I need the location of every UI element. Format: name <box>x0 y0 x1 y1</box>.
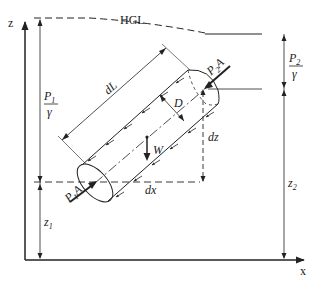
p2-gamma-numerator: P2 <box>288 51 300 67</box>
z2-label: z2 <box>287 176 297 192</box>
dz-label: dz <box>208 130 219 144</box>
z-axis-label: z <box>8 16 13 30</box>
weight-arrow: W <box>144 135 165 161</box>
p2-gamma-denominator: γ <box>292 67 297 81</box>
D-dimension: D <box>160 95 184 121</box>
hgl-label: HGL <box>120 13 145 27</box>
p2A-label: P2A <box>203 55 229 81</box>
p1-gamma-denominator: γ <box>47 105 52 119</box>
W-label: W <box>153 143 164 157</box>
p1A-label: P1A <box>61 182 87 208</box>
z-axis: z <box>8 16 25 260</box>
p1-gamma-numerator: P1 <box>43 89 55 105</box>
x-axis: x <box>25 260 306 278</box>
dx-label: dx <box>145 183 157 197</box>
dL-label: dL <box>101 78 120 97</box>
z1-label: z1 <box>43 215 53 231</box>
D-label: D <box>173 96 183 110</box>
p1-gamma-dimension: P1 γ z1 <box>38 19 59 259</box>
p1A-force: P1A <box>61 181 97 207</box>
p2A-force: P2A <box>203 55 230 89</box>
x-axis-label: x <box>300 264 306 278</box>
diagram-canvas: z x HGL P1 γ z1 P2 γ z2 <box>0 0 317 284</box>
dz-dimension: dz <box>201 89 220 182</box>
pipe-flow-diagram: z x HGL P1 γ z1 P2 γ z2 <box>0 0 317 284</box>
hgl-line: HGL <box>34 13 262 34</box>
